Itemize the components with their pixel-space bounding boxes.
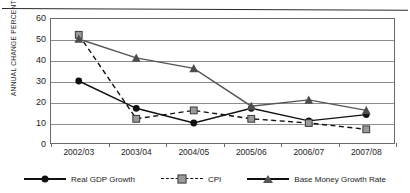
- series-1: [75, 78, 369, 127]
- y-tick-label: 40: [24, 55, 46, 65]
- legend-swatch: [24, 173, 66, 185]
- legend-item-3[interactable]: Base Money Growth Rate: [247, 173, 386, 185]
- series-2: [75, 31, 369, 132]
- square-marker-icon: [190, 107, 197, 114]
- legend-swatch: [247, 173, 289, 185]
- circle-marker-icon: [190, 120, 197, 127]
- square-marker-icon: [133, 115, 140, 122]
- series-line: [79, 35, 367, 130]
- x-axis-tick-labels: 2002/032003/042004/052005/062006/072007/…: [50, 147, 395, 161]
- legend-item-1[interactable]: Real GDP Growth: [24, 173, 135, 185]
- top-divider-rule: [2, 8, 408, 11]
- y-tick-label: 30: [24, 76, 46, 86]
- legend-label: CPI: [208, 175, 221, 184]
- y-tick-label: 10: [24, 118, 46, 128]
- square-marker-icon: [305, 120, 312, 127]
- legend-label: Real GDP Growth: [71, 175, 135, 184]
- series-3: [74, 35, 370, 115]
- triangle-marker-icon: [263, 175, 273, 183]
- square-marker-icon: [248, 115, 255, 122]
- chart-legend: Real GDP GrowthCPIBase Money Growth Rate: [0, 170, 410, 188]
- y-tick-label: 20: [24, 97, 46, 107]
- x-tick-label: 2006/07: [293, 147, 324, 157]
- legend-label: Base Money Growth Rate: [294, 175, 386, 184]
- series-layer: [50, 18, 395, 144]
- x-tick-label: 2007/08: [351, 147, 382, 157]
- x-tick-label: 2004/05: [178, 147, 209, 157]
- x-tick-label: 2002/03: [63, 147, 94, 157]
- y-tick-label: 0: [24, 139, 46, 149]
- y-axis-title: ANNUAL CHANGE PERCENT (%): [10, 0, 17, 107]
- y-tick-label: 60: [24, 13, 46, 23]
- x-tick-label: 2005/06: [236, 147, 267, 157]
- chart-root: ANNUAL CHANGE PERCENT (%) 0102030405060 …: [0, 0, 410, 193]
- square-marker-icon: [177, 175, 186, 184]
- series-line: [79, 39, 367, 110]
- circle-marker-icon: [133, 105, 140, 112]
- x-axis-tick-mark: [396, 143, 397, 147]
- legend-item-2[interactable]: CPI: [161, 173, 221, 185]
- y-tick-label: 50: [24, 34, 46, 44]
- legend-swatch: [161, 173, 203, 185]
- circle-marker-icon: [42, 176, 49, 183]
- x-tick-label: 2003/04: [121, 147, 152, 157]
- y-axis-tick-labels: 0102030405060: [20, 0, 46, 193]
- square-marker-icon: [363, 126, 370, 133]
- circle-marker-icon: [75, 78, 82, 85]
